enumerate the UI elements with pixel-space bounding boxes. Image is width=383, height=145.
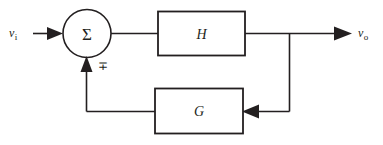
block-h: H bbox=[158, 12, 245, 56]
output-signal-subscript: o bbox=[363, 32, 368, 42]
feedback-return-arrowhead-icon bbox=[81, 56, 93, 72]
input-signal-subscript: i bbox=[14, 32, 17, 42]
input-arrowhead-icon bbox=[47, 27, 63, 40]
feedback-arrowhead-icon bbox=[242, 105, 259, 119]
input-wire bbox=[33, 27, 63, 40]
summing-junction: Σ bbox=[63, 10, 111, 58]
block-g: G bbox=[155, 89, 243, 134]
output-signal-label: vo bbox=[358, 27, 368, 42]
diagram-canvas: Σ H G bbox=[0, 0, 383, 145]
feedback-return-wire bbox=[81, 56, 156, 112]
feedback-sign-label: ∓ bbox=[98, 59, 108, 73]
output-arrowhead-icon bbox=[334, 27, 352, 41]
feedback-tap-wire bbox=[242, 34, 290, 119]
block-g-label: G bbox=[194, 104, 204, 119]
block-h-label: H bbox=[195, 27, 207, 42]
sigma-glyph: Σ bbox=[82, 25, 92, 44]
output-wire bbox=[245, 27, 352, 41]
input-signal-label: vi bbox=[9, 27, 17, 42]
block-diagram: Σ H G bbox=[0, 0, 383, 145]
